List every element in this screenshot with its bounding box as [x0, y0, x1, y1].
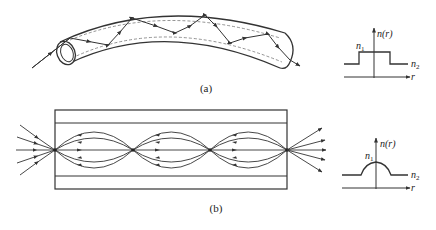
step-index-profile-graph: n(r) n1 n2 r: [344, 28, 420, 82]
fiber-diagram: (a) n(r) n1 n2 r: [0, 0, 436, 230]
tube-outer-bottom: [70, 42, 280, 68]
graded-profile-curve: [342, 162, 408, 175]
exit-ray: [290, 60, 300, 66]
core-boundary-bottom: [72, 37, 282, 62]
incoming-rays: [16, 125, 55, 175]
ray-bundle-3: [210, 132, 287, 168]
label-n2: n2: [411, 58, 420, 71]
fiber-outer-rect: [55, 110, 287, 189]
ray-bundle-1: [55, 132, 133, 168]
axis-label-r: r: [411, 71, 415, 82]
panel-a-step-index-fiber: (a): [32, 15, 300, 95]
caption-a: (a): [200, 82, 213, 95]
axis-label-n-r-b: n(r): [380, 138, 396, 150]
caption-b: (b): [210, 202, 223, 215]
graded-index-profile-graph: n(r) n1 n2 r: [342, 138, 420, 193]
panel-b-graded-index-fiber: (b): [16, 110, 326, 215]
ray-bundle-2: [133, 132, 210, 168]
tube-outer-top: [60, 16, 285, 42]
axis-label-r-b: r: [411, 182, 415, 193]
label-n2-b: n2: [411, 169, 420, 182]
outgoing-rays: [287, 128, 326, 172]
axis-label-n-r: n(r): [377, 28, 393, 40]
label-n1-b: n1: [365, 150, 374, 163]
label-n1: n1: [356, 40, 365, 53]
step-profile-curve: [344, 52, 408, 64]
